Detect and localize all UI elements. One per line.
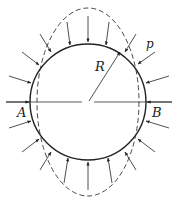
label-point-a: A <box>17 106 26 119</box>
label-point-b: B <box>152 106 162 119</box>
ring-diagram <box>0 0 178 204</box>
label-radius: R <box>95 60 105 73</box>
label-pressure: p <box>146 38 154 50</box>
